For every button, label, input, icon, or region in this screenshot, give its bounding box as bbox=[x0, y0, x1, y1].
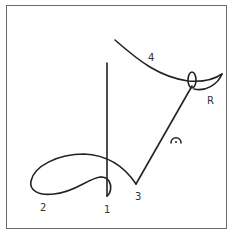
label-stroke-3: 3 bbox=[135, 191, 141, 202]
stroke-1-hook bbox=[101, 177, 111, 196]
label-release: R bbox=[207, 95, 214, 106]
label-stroke-1: 1 bbox=[104, 204, 110, 215]
stroke-4-arc bbox=[115, 40, 222, 81]
stroke-diagram: 4 R 3 2 1 bbox=[0, 0, 233, 237]
fermata-dot bbox=[175, 141, 177, 143]
stroke-2-loop bbox=[31, 154, 136, 194]
label-stroke-2: 2 bbox=[40, 202, 46, 213]
label-stroke-4: 4 bbox=[148, 52, 154, 63]
stroke-3-diagonal bbox=[136, 86, 192, 184]
